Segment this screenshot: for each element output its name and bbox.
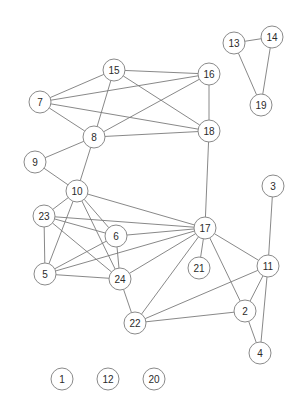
graph-edge xyxy=(146,312,234,322)
graph-edge xyxy=(52,223,111,272)
graph-edge xyxy=(105,132,198,137)
graph-edge xyxy=(261,277,267,342)
graph-edge xyxy=(124,289,132,312)
graph-edge xyxy=(269,197,273,255)
graph-node-circle[interactable] xyxy=(83,126,105,148)
graph-edge xyxy=(263,48,270,94)
graph-edge xyxy=(238,53,256,95)
nodes-layer: 123456789101112131415161718192021222324 xyxy=(24,26,284,390)
graph-edge xyxy=(55,241,107,269)
graph-node[interactable]: 2 xyxy=(234,300,256,322)
graph-node[interactable]: 14 xyxy=(261,26,283,48)
graph-node-circle[interactable] xyxy=(51,368,73,390)
graph-edge xyxy=(80,147,90,180)
network-graph-svg: 123456789101112131415161718192021222324 xyxy=(0,0,306,415)
graph-edge xyxy=(249,321,257,342)
graph-node[interactable]: 8 xyxy=(83,126,105,148)
graph-edge xyxy=(45,141,84,157)
graph-node-circle[interactable] xyxy=(103,59,125,81)
graph-edge xyxy=(49,108,85,131)
graph-node[interactable]: 18 xyxy=(198,120,220,142)
graph-edge xyxy=(44,227,45,263)
graph-node-circle[interactable] xyxy=(34,263,56,285)
graph-node-circle[interactable] xyxy=(261,26,283,48)
graph-edge xyxy=(53,198,68,210)
graph-edge xyxy=(50,74,104,97)
graph-edge xyxy=(201,239,204,257)
graph-edge xyxy=(245,39,261,42)
graph-node-circle[interactable] xyxy=(198,120,220,142)
graph-node-circle[interactable] xyxy=(124,312,146,334)
graph-node-circle[interactable] xyxy=(234,300,256,322)
graph-node[interactable]: 23 xyxy=(33,205,55,227)
graph-node-circle[interactable] xyxy=(194,217,216,239)
graph-edge xyxy=(125,70,198,73)
graph-edge xyxy=(104,79,200,131)
graph-node[interactable]: 20 xyxy=(143,368,165,390)
graph-edge xyxy=(51,104,198,129)
graph-node-circle[interactable] xyxy=(143,368,165,390)
graph-node-circle[interactable] xyxy=(249,342,271,364)
graph-node-circle[interactable] xyxy=(109,268,131,290)
graph-edge xyxy=(205,142,208,217)
graph-edge xyxy=(250,276,263,301)
graph-node[interactable]: 13 xyxy=(223,32,245,54)
graph-node-circle[interactable] xyxy=(33,205,55,227)
graph-node-circle[interactable] xyxy=(97,368,119,390)
graph-node[interactable]: 11 xyxy=(257,255,279,277)
graph-edge xyxy=(214,234,258,261)
graph-node[interactable]: 15 xyxy=(103,59,125,81)
graph-node[interactable]: 16 xyxy=(198,63,220,85)
graph-node-circle[interactable] xyxy=(24,151,46,173)
graph-node[interactable]: 22 xyxy=(124,312,146,334)
graph-node-circle[interactable] xyxy=(198,63,220,85)
graph-node-circle[interactable] xyxy=(105,225,127,247)
graph-node[interactable]: 3 xyxy=(262,175,284,197)
graph-node-circle[interactable] xyxy=(250,94,272,116)
graph-edge xyxy=(56,275,109,279)
graph-edge xyxy=(129,234,195,274)
graph-edge xyxy=(97,81,111,127)
graph-node-circle[interactable] xyxy=(262,175,284,197)
graph-node-circle[interactable] xyxy=(66,180,88,202)
graph-node[interactable]: 9 xyxy=(24,151,46,173)
graph-node-circle[interactable] xyxy=(188,257,210,279)
graph-edge xyxy=(117,247,119,268)
graph-node-circle[interactable] xyxy=(223,32,245,54)
network-graph-canvas: 123456789101112131415161718192021222324 xyxy=(0,0,306,415)
graph-node[interactable]: 19 xyxy=(250,94,272,116)
graph-node-circle[interactable] xyxy=(257,255,279,277)
graph-node[interactable]: 21 xyxy=(188,257,210,279)
graph-edge xyxy=(142,237,199,314)
graph-edge xyxy=(210,238,240,301)
graph-node[interactable]: 1 xyxy=(51,368,73,390)
graph-node[interactable]: 6 xyxy=(105,225,127,247)
graph-node[interactable]: 4 xyxy=(249,342,271,364)
graph-node[interactable]: 17 xyxy=(194,217,216,239)
graph-node-circle[interactable] xyxy=(29,91,51,113)
graph-node[interactable]: 24 xyxy=(109,268,131,290)
graph-node[interactable]: 7 xyxy=(29,91,51,113)
graph-node[interactable]: 5 xyxy=(34,263,56,285)
graph-node[interactable]: 10 xyxy=(66,180,88,202)
graph-edge xyxy=(44,168,68,185)
graph-node[interactable]: 12 xyxy=(97,368,119,390)
